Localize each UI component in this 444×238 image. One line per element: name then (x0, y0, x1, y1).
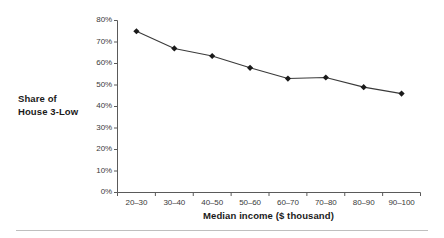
x-tick-marks (118, 193, 421, 197)
y-tick-label: 70% (78, 37, 112, 46)
y-tick-label: 50% (78, 80, 112, 89)
data-point-markers (133, 28, 404, 97)
x-tick-label: 90–100 (383, 198, 421, 207)
y-tick-label: 0% (78, 187, 112, 196)
data-point-marker (323, 74, 329, 80)
y-tick-label: 60% (78, 58, 112, 67)
data-point-marker (171, 45, 177, 51)
x-tick-label: 50–60 (231, 198, 269, 207)
y-tick-label: 80% (78, 15, 112, 24)
data-point-marker (398, 91, 404, 97)
x-tick-label: 70–80 (307, 198, 345, 207)
y-tick-label: 20% (78, 144, 112, 153)
x-tick-label: 20–30 (118, 198, 156, 207)
x-tick-label: 80–90 (345, 198, 383, 207)
y-tick-label: 30% (78, 123, 112, 132)
x-tick-label: 30–40 (155, 198, 193, 207)
data-point-marker (133, 28, 139, 34)
bottom-divider (16, 230, 428, 231)
chart-figure: Share of House 3-Low Median income ($ th… (0, 0, 444, 238)
x-axis-title: Median income ($ thousand) (117, 210, 420, 221)
data-point-marker (247, 65, 253, 71)
y-tick-marks (114, 21, 118, 193)
axis-lines (118, 21, 421, 193)
data-point-marker (285, 75, 291, 81)
y-tick-label: 40% (78, 101, 112, 110)
y-tick-label: 10% (78, 166, 112, 175)
data-line-series (136, 31, 401, 93)
x-tick-label: 40–50 (193, 198, 231, 207)
data-point-marker (361, 84, 367, 90)
x-tick-label: 60–70 (269, 198, 307, 207)
data-point-marker (209, 53, 215, 59)
